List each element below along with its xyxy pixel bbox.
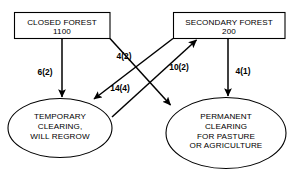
node-secondary-forest-value: 200 (222, 27, 236, 36)
node-permanent-clearing-line-3: FOR PASTURE (197, 132, 256, 141)
edge-secondary-to-permanent: 4(1) (228, 39, 251, 97)
node-temporary-clearing-line-1: TEMPORARY (34, 112, 87, 121)
diagram-canvas: 6(2) 4(2) 10(2) 14(4) 4(1) CLOSED FOREST… (0, 0, 297, 176)
node-secondary-forest: SECONDARY FOREST 200 (174, 13, 286, 39)
edge-secondary-to-permanent-label: 4(1) (236, 66, 251, 76)
edge-temporary-to-secondary-label: 10(2) (169, 62, 189, 72)
node-temporary-clearing-line-2: CLEARING, (38, 122, 83, 131)
node-permanent-clearing-line-4: OR AGRICULTURE (190, 141, 263, 150)
edge-secondary-to-temporary-label: 14(4) (110, 83, 130, 93)
node-closed-forest-label: CLOSED FOREST (27, 18, 97, 27)
node-temporary-clearing-line-3: WILL REGROW (30, 132, 90, 141)
edge-secondary-to-temporary: 14(4) (94, 39, 173, 100)
flow-diagram-svg: 6(2) 4(2) 10(2) 14(4) 4(1) CLOSED FOREST… (0, 0, 297, 176)
node-permanent-clearing: PERMANENT CLEARING FOR PASTURE OR AGRICU… (166, 98, 286, 169)
node-permanent-clearing-line-1: PERMANENT (200, 112, 252, 121)
edge-closed-to-permanent-label: 4(2) (117, 51, 132, 61)
node-closed-forest: CLOSED FOREST 1100 (15, 13, 111, 39)
edge-secondary-to-temporary-line (94, 39, 173, 100)
edge-closed-to-temporary-label: 6(2) (38, 67, 53, 77)
node-closed-forest-value: 1100 (53, 27, 71, 36)
node-permanent-clearing-line-2: CLEARING (205, 122, 247, 131)
node-secondary-forest-label: SECONDARY FOREST (185, 18, 273, 27)
edge-closed-to-temporary: 6(2) (38, 39, 62, 98)
node-temporary-clearing: TEMPORARY CLEARING, WILL REGROW (8, 99, 112, 158)
